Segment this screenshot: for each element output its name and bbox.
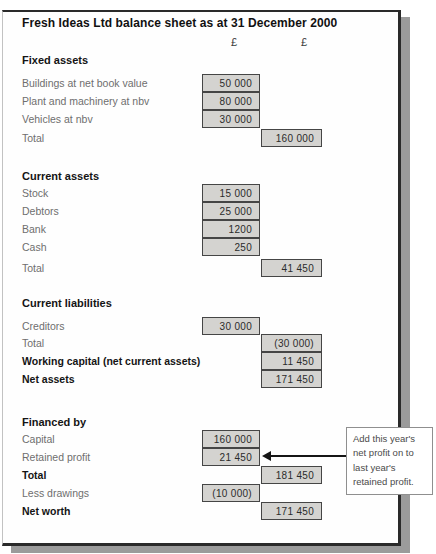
value-box: 181 450 [261, 466, 322, 484]
value-box: 11 450 [261, 352, 322, 370]
callout-arrow-line [271, 455, 346, 457]
row-label-total: Total [22, 469, 46, 481]
value-box: 171 450 [261, 370, 322, 388]
balance-sheet-figure: Fresh Ideas Ltd balance sheet as at 31 D… [0, 0, 436, 554]
row-label: Bank [22, 223, 46, 235]
row-label: Capital [22, 433, 55, 445]
arrow-left-icon [262, 451, 271, 461]
value-box: (10 000) [202, 484, 260, 502]
row-label: Creditors [22, 320, 65, 332]
section-heading-financed-by: Financed by [22, 416, 86, 428]
row-label: Buildings at net book value [22, 77, 148, 89]
total-value-box: 160 000 [261, 129, 322, 147]
annotation-callout: Add this year's net profit on to last ye… [346, 427, 433, 495]
column-header-pound-2: £ [301, 36, 307, 48]
row-label-net-worth: Net worth [22, 505, 70, 517]
total-value-box: 41 450 [261, 259, 322, 277]
value-box: 160 000 [202, 430, 260, 448]
row-label: Cash [22, 241, 47, 253]
value-box: 15 000 [202, 184, 260, 202]
value-box: 1200 [202, 220, 260, 238]
row-label: Vehicles at nbv [22, 113, 93, 125]
section-heading-current-assets: Current assets [22, 170, 99, 182]
page-title: Fresh Ideas Ltd balance sheet as at 31 D… [22, 16, 337, 30]
value-box: 50 000 [202, 74, 260, 92]
row-label: Total [22, 262, 44, 274]
row-label-retained-profit: Retained profit [22, 451, 90, 463]
value-box: 25 000 [202, 202, 260, 220]
section-heading-current-liabilities: Current liabilities [22, 297, 112, 309]
column-header-pound-1: £ [231, 36, 237, 48]
row-label: Stock [22, 187, 48, 199]
value-box: (30 000) [261, 334, 322, 352]
value-box: 80 000 [202, 92, 260, 110]
row-label-working-capital: Working capital (net current assets) [22, 355, 200, 367]
row-label-net-assets: Net assets [22, 373, 75, 385]
value-box: 30 000 [202, 317, 260, 335]
value-box: 30 000 [202, 110, 260, 128]
row-label: Total [22, 132, 44, 144]
row-label: Debtors [22, 205, 59, 217]
row-label: Plant and machinery at nbv [22, 95, 149, 107]
section-heading-fixed-assets: Fixed assets [22, 54, 88, 66]
row-label: Less drawings [22, 487, 89, 499]
row-label: Total [22, 337, 44, 349]
value-box: 171 450 [261, 502, 322, 520]
value-box-retained-profit: 21 450 [202, 448, 260, 466]
value-box: 250 [202, 238, 260, 256]
